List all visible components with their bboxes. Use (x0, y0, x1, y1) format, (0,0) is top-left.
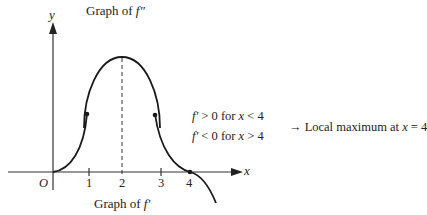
conclusion-text: Local maximum at (302, 120, 403, 134)
y-axis-arrowhead (49, 22, 57, 34)
right-arrow-icon: → (289, 120, 302, 134)
conclusion: → Local maximum at x = 4 (289, 121, 427, 134)
title-bottom: Graph of f′ (94, 197, 150, 210)
condition-1-rel: > 0 for (198, 109, 238, 123)
title-top-prefix: Graph of (86, 3, 136, 18)
point-left (85, 112, 90, 117)
x-axis-label: x (244, 164, 250, 177)
point-x4 (188, 170, 193, 175)
title-bottom-fn: f′ (144, 196, 150, 211)
conclusion-value: = 4 (408, 120, 427, 134)
y-axis-label: y (49, 8, 55, 21)
x-axis-arrowhead (231, 168, 243, 176)
graph-diagram (0, 0, 427, 215)
f-prime-curve-left (53, 114, 87, 172)
title-top: Graph of f″ (86, 4, 145, 17)
condition-2-rel: < 0 for (198, 129, 238, 143)
origin-label: O (39, 177, 48, 190)
title-top-fn: f″ (136, 3, 145, 18)
tick-label-4: 4 (186, 177, 192, 190)
condition-line-2: f′ < 0 for x > 4 (192, 130, 264, 143)
tick-label-3: 3 (158, 177, 164, 190)
condition-1-cmp: < 4 (244, 109, 264, 123)
point-right (153, 113, 158, 118)
condition-line-1: f′ > 0 for x < 4 (192, 110, 264, 123)
title-bottom-prefix: Graph of (94, 196, 144, 211)
condition-2-cmp: > 4 (244, 129, 264, 143)
tick-label-1: 1 (86, 177, 92, 190)
tick-label-2: 2 (119, 177, 125, 190)
